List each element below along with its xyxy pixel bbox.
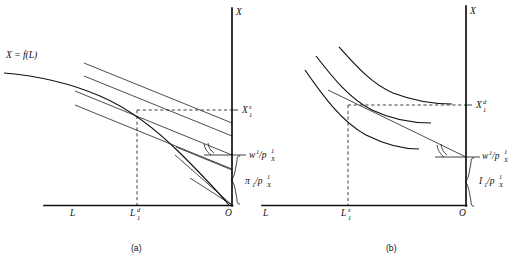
panel-a-angle-arc [208,143,214,153]
panel-b-output-level-label: X d 1 [475,98,487,113]
svg-text:π: π [245,176,250,186]
svg-text:1: 1 [504,148,507,155]
panel-a-profit-ratio-label: π 1 /p X 1 [245,173,272,188]
svg-text:L: L [129,208,135,218]
panel-b-origin-label: O [459,208,466,218]
panel-a-isoprofit-line-4 [75,105,232,169]
svg-text:X: X [266,181,272,188]
panel-a-output-level-label: X s 1 [241,103,252,118]
svg-text:1: 1 [249,111,252,118]
panel-b: X L O X d 1 L s 1 w 1 /p X 1 I 1 /p X 1 … [262,6,509,253]
panel-a-wage-ratio-label: w 1 /p X 1 [249,147,276,162]
svg-text:X: X [241,105,249,115]
panel-a-horizontal-axis-label: L [69,208,75,218]
panel-a-production-curve [4,73,229,205]
panel-b-indifference-curve-1 [305,70,419,149]
svg-text:/p: /p [491,151,500,161]
panel-a: X = f(L) X L O X s 1 L d 1 w 1 /p X 1 π … [4,7,276,253]
panel-a-isoprofit-line-1 [84,63,232,123]
svg-text:1: 1 [483,106,486,113]
svg-text:X: X [498,181,504,188]
svg-text:I: I [478,176,483,186]
svg-text:w: w [482,151,489,161]
svg-text:/p: /p [258,150,267,160]
svg-text:1: 1 [499,173,502,180]
svg-text:L: L [340,208,346,218]
svg-text:1: 1 [137,214,140,221]
panel-b-horizontal-axis-label: L [262,208,268,218]
panel-a-labor-level-label: L d 1 [129,206,141,221]
svg-text:X: X [270,155,276,162]
economics-figure: X = f(L) X L O X s 1 L d 1 w 1 /p X 1 π … [0,0,514,261]
panel-b-caption: (b) [386,243,397,253]
svg-text:s: s [249,103,252,110]
panel-a-caption: (a) [131,243,142,253]
svg-text:d: d [483,98,487,105]
panel-a-isoprofit-line-2 [84,76,232,136]
svg-text:w: w [249,150,256,160]
figure-svg: X = f(L) X L O X s 1 L d 1 w 1 /p X 1 π … [0,0,514,261]
panel-b-indifference-curve-2 [316,56,431,123]
panel-a-isoprofit-segment-7 [175,155,232,205]
svg-text:/p: /p [486,176,495,186]
svg-text:X: X [503,156,509,163]
svg-text:d: d [137,206,141,213]
svg-text:X: X [475,100,483,110]
panel-a-vertical-axis-label: X [235,7,243,17]
panel-b-income-ratio-label: I 1 /p X 1 [478,173,504,188]
svg-text:1: 1 [267,173,270,180]
panel-a-isoprofit-segment-5 [176,147,232,170]
panel-a-origin-label: O [225,208,232,218]
panel-b-vertical-axis-label: X [469,6,477,16]
svg-text:s: s [348,206,351,213]
svg-text:1: 1 [271,147,274,154]
panel-b-indifference-curve-3 [339,47,452,104]
panel-b-wage-ratio-label: w 1 /p X 1 [482,148,509,163]
panel-b-labor-level-label: L s 1 [340,206,351,221]
svg-text:/p: /p [254,176,263,186]
svg-text:1: 1 [348,214,351,221]
panel-a-production-function-label: X = f(L) [5,50,37,61]
